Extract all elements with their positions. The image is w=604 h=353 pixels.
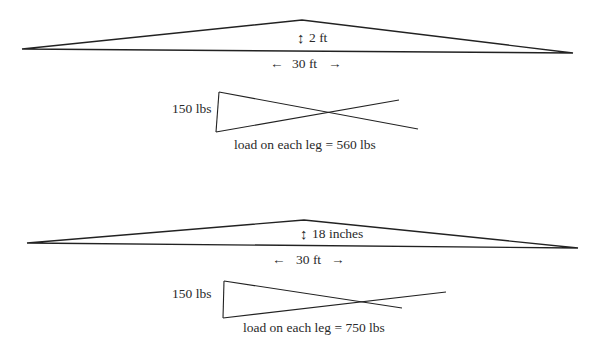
vertical-member: [216, 92, 219, 132]
span-label: 30 ft: [296, 252, 321, 267]
load-label: load on each leg = 750 lbs: [243, 320, 385, 335]
load-label: load on each leg = 560 lbs: [234, 137, 376, 152]
leg-detail: 150 lbs load on each leg = 750 lbs: [172, 281, 446, 335]
leg-detail: 150 lbs load on each leg = 560 lbs: [172, 92, 418, 152]
leg-a: [219, 92, 418, 129]
leg-b: [216, 100, 399, 132]
span-label: 30 ft: [292, 56, 317, 71]
truss-diagram-2ft: ↕ 2 ft ← 30 ft → 150 lbs load on each le…: [22, 20, 573, 152]
height-label: 2 ft: [309, 30, 328, 45]
leg-b: [223, 292, 446, 318]
leg-a: [224, 281, 402, 308]
span-arrow-right-icon: →: [331, 252, 345, 267]
span-arrow-left-icon: ←: [272, 252, 286, 267]
height-arrow-icon: ↕: [297, 30, 305, 46]
span-arrow-right-icon: →: [328, 56, 342, 71]
force-label: 150 lbs: [172, 286, 211, 301]
force-label: 150 lbs: [172, 101, 211, 116]
span-arrow-left-icon: ←: [270, 56, 284, 71]
truss-diagram: ↕ 2 ft ← 30 ft → 150 lbs load on each le…: [0, 0, 604, 353]
height-arrow-icon: ↕: [300, 226, 308, 242]
truss-diagram-18in: ↕ 18 inches ← 30 ft → 150 lbs load on ea…: [27, 220, 578, 335]
vertical-member: [223, 281, 224, 318]
height-label: 18 inches: [312, 226, 363, 241]
